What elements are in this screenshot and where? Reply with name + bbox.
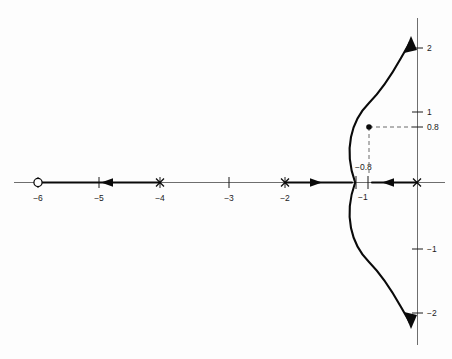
y-tick-label: 1 <box>427 107 432 117</box>
x-tick-label: −5 <box>94 193 104 203</box>
x-tick-label: −2 <box>280 193 290 203</box>
y-tick-label: 2 <box>427 43 432 53</box>
chart-background <box>0 0 452 359</box>
y-tick-label: −2 <box>427 308 437 318</box>
y-tick-label: 0.8 <box>427 122 439 132</box>
x-tick-label: −4 <box>155 193 165 203</box>
zero-marker-minus6 <box>34 178 42 186</box>
y-tick-label: −1 <box>427 244 437 254</box>
x-tick-label: −3 <box>224 193 234 203</box>
marked-point <box>366 124 372 130</box>
root-locus-chart: −6 −5 −4 −3 −2 −1 −0.8 2 1 0.8 −1 −2 <box>0 0 452 359</box>
x-tick-label: −1 <box>358 192 368 202</box>
x-tick-label: −6 <box>33 193 43 203</box>
